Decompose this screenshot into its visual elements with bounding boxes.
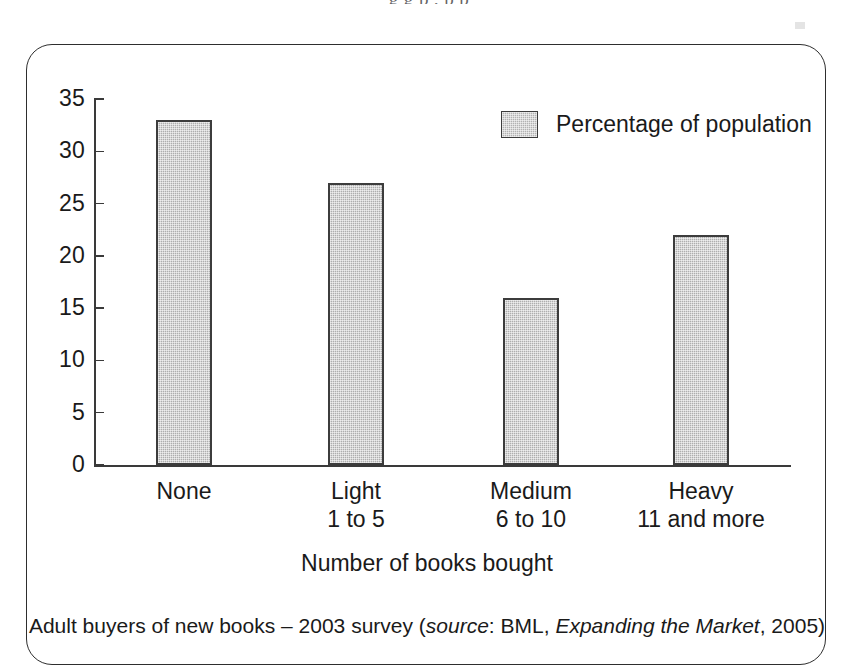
y-tick-label-35: 35 <box>25 87 85 110</box>
bar-light <box>328 183 384 465</box>
x-axis-line <box>94 465 791 467</box>
x-axis-title: Number of books bought <box>27 550 827 577</box>
bar-heavy <box>673 235 729 465</box>
figure-frame: 35302520151050 Percentage of population … <box>26 44 826 665</box>
caption-part-3: , 2005) <box>760 614 825 637</box>
y-tick-15 <box>94 307 104 309</box>
x-label-main: None <box>157 478 212 504</box>
y-axis-line <box>94 99 96 466</box>
y-tick-20 <box>94 255 104 257</box>
y-tick-35 <box>94 98 104 100</box>
y-tick-label-15: 15 <box>25 296 85 319</box>
x-label-main: Light <box>331 478 381 504</box>
scan-speck <box>795 22 805 29</box>
caption-italic-source: source <box>426 614 489 637</box>
legend-swatch-percentage-of-population <box>501 111 538 138</box>
y-tick-label-30: 30 <box>25 139 85 162</box>
y-tick-label-20: 20 <box>25 244 85 267</box>
x-label-main: Medium <box>490 478 572 504</box>
bar-medium <box>503 298 559 465</box>
caption-part-1: Adult buyers of new books – 2003 survey … <box>29 614 426 637</box>
x-label-sub: 11 and more <box>596 505 806 533</box>
y-tick-5 <box>94 412 104 414</box>
scan-bleed-text: g g p , p p <box>0 0 858 4</box>
chart-legend: Percentage of population <box>501 111 812 138</box>
y-tick-label-25: 25 <box>25 192 85 215</box>
y-tick-10 <box>94 360 104 362</box>
y-tick-0 <box>94 464 104 466</box>
caption-italic-title: Expanding the Market <box>555 614 759 637</box>
bar-none <box>156 120 212 465</box>
y-tick-label-5: 5 <box>25 401 85 424</box>
caption-part-2: : BML, <box>489 614 556 637</box>
y-tick-label-10: 10 <box>25 348 85 371</box>
y-tick-25 <box>94 203 104 205</box>
figure-caption: Adult buyers of new books – 2003 survey … <box>27 614 827 638</box>
y-tick-label-0: 0 <box>25 453 85 476</box>
legend-label-percentage-of-population: Percentage of population <box>556 111 812 138</box>
x-label-main: Heavy <box>668 478 733 504</box>
x-label-heavy: Heavy11 and more <box>596 477 806 533</box>
bar-chart-plot: 35302520151050 Percentage of population … <box>27 45 827 666</box>
y-tick-30 <box>94 151 104 153</box>
